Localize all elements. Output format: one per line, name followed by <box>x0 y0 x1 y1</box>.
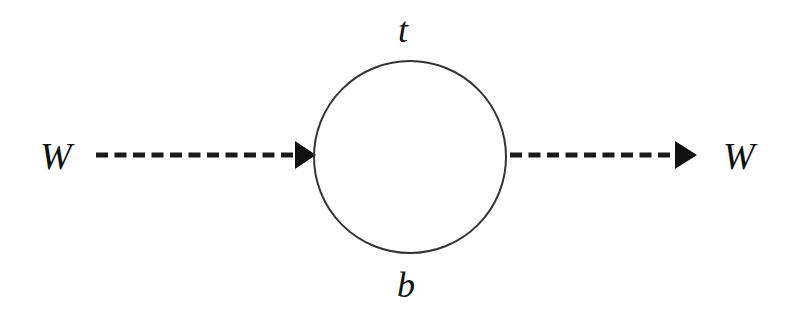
feynman-diagram <box>0 0 790 333</box>
incoming-w-label: W <box>40 137 72 175</box>
incoming-arrow-icon <box>295 141 316 169</box>
outgoing-arrow-icon <box>675 141 697 169</box>
bottom-quark-label: b <box>397 267 415 303</box>
outgoing-w-label: W <box>723 137 755 175</box>
top-quark-label: t <box>398 12 408 48</box>
quark-loop <box>314 61 506 253</box>
